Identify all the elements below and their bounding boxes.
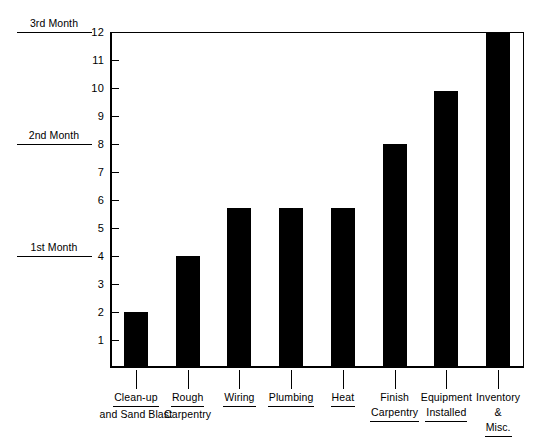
y-axis-tick (110, 312, 119, 313)
category-label-line: Carpentry (133, 407, 243, 422)
bar (486, 32, 510, 368)
category-label-line: Inventory (443, 390, 547, 405)
category-label-text: Inventory (475, 390, 521, 405)
month-marker-label: 1st Month (9, 242, 99, 253)
y-axis-tick (110, 172, 119, 173)
bar (227, 208, 251, 368)
y-axis-tick (110, 88, 119, 89)
y-axis-tick (110, 340, 119, 341)
category-label: Inventory&Misc. (443, 390, 547, 437)
category-leader-line (446, 370, 447, 389)
bar (434, 91, 458, 368)
y-axis-tick-label: 1 (78, 335, 104, 346)
y-axis-tick (110, 200, 119, 201)
plot-area-frame (110, 32, 524, 368)
category-leader-line (498, 370, 499, 389)
bar (124, 312, 148, 368)
bar (176, 256, 200, 368)
category-leader-line (343, 370, 344, 389)
y-axis-tick-label: 9 (78, 111, 104, 122)
category-label-text: Carpentry (163, 407, 212, 422)
category-label-line: & (443, 405, 547, 420)
y-axis-tick-label: 6 (78, 195, 104, 206)
bar (331, 208, 355, 368)
bar-chart: 121110987654321 3rd Month2nd Month1st Mo… (0, 0, 547, 445)
bar (279, 208, 303, 368)
y-axis-tick (110, 228, 119, 229)
y-axis-tick (110, 116, 119, 117)
y-axis-tick (110, 60, 119, 61)
y-axis-tick-label: 2 (78, 307, 104, 318)
category-label-line: Misc. (443, 420, 547, 437)
y-axis-tick-label: 5 (78, 223, 104, 234)
month-marker-label: 3rd Month (9, 18, 99, 29)
month-marker-label: 2nd Month (9, 130, 99, 141)
category-leader-line (291, 370, 292, 389)
category-leader-line (136, 370, 137, 389)
y-axis-tick (110, 256, 119, 257)
month-marker-rule (17, 256, 92, 257)
bar (383, 144, 407, 368)
y-axis-tick-label: 3 (78, 279, 104, 290)
category-leader-line (239, 370, 240, 389)
y-axis-tick-label: 11 (78, 55, 104, 66)
category-label-text: Misc. (485, 420, 512, 437)
y-axis-tick-label: 10 (78, 83, 104, 94)
category-leader-line (188, 370, 189, 389)
month-marker-rule (17, 144, 92, 145)
y-axis-tick (110, 284, 119, 285)
month-marker-rule (17, 32, 92, 33)
y-axis-tick (110, 144, 119, 145)
y-axis-tick-label: 7 (78, 167, 104, 178)
category-leader-line (395, 370, 396, 389)
category-label-text: & (494, 405, 503, 420)
